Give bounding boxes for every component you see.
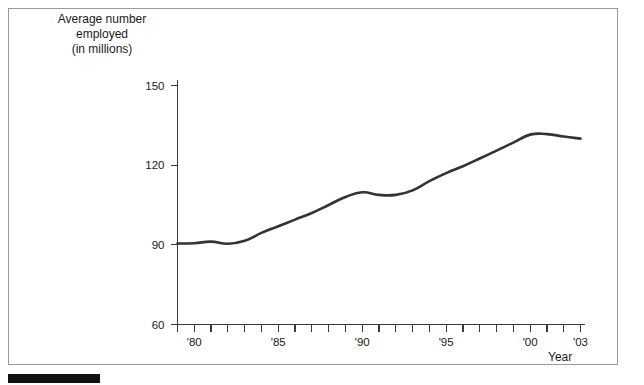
y-axis: 6090120150 bbox=[145, 80, 177, 331]
chart-figure: Average number employed (in millions) Ye… bbox=[0, 0, 644, 385]
plot-area: 6090120150 '80'85'90'95'00'03 bbox=[0, 0, 644, 385]
y-tick-label: 120 bbox=[145, 159, 164, 171]
x-tick-label: '85 bbox=[271, 336, 286, 348]
x-tick-label: '95 bbox=[439, 336, 454, 348]
x-tick-label: '03 bbox=[573, 336, 588, 348]
x-tick-label: '90 bbox=[355, 336, 370, 348]
data-line-average-number-employed bbox=[178, 134, 581, 244]
y-tick-label: 150 bbox=[145, 80, 164, 92]
x-tick-label: '80 bbox=[187, 336, 202, 348]
x-tick-label: '00 bbox=[523, 336, 538, 348]
x-axis: '80'85'90'95'00'03 bbox=[178, 325, 589, 348]
y-tick-label: 60 bbox=[152, 319, 165, 331]
y-tick-label: 90 bbox=[152, 239, 165, 251]
data-series-group bbox=[178, 134, 581, 244]
